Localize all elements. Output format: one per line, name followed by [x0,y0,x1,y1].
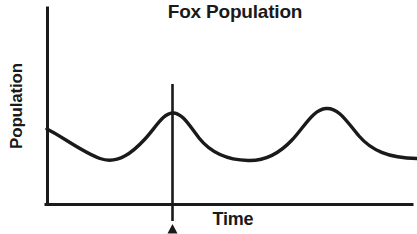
chart-container: Fox Population Population Time [0,0,417,234]
marker-arrow-icon [168,224,178,234]
plot-area [0,0,417,234]
population-curve [47,108,417,160]
